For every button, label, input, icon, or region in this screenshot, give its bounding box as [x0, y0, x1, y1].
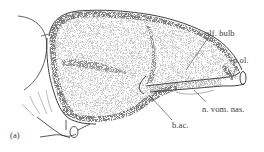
label-b-ac: b.ac. — [172, 121, 189, 130]
label-n-vom-nas: n. vom. nas. — [202, 105, 245, 114]
leader-b-ac — [150, 96, 172, 120]
label-n-ol: n.ol. — [233, 56, 249, 65]
lower-structure-strokes — [22, 90, 52, 116]
posterior-brain-outline — [18, 16, 49, 90]
anatomical-illustration — [0, 0, 264, 152]
panel-label: (a) — [10, 131, 20, 140]
label-olf-bulb: olf. bulb — [205, 29, 235, 38]
leader-n-vom-nas — [194, 90, 206, 102]
